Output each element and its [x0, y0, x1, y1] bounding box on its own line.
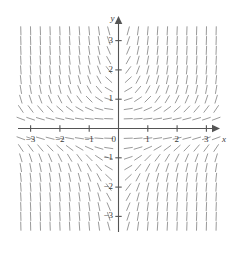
slope-segment: [157, 202, 158, 211]
slope-segment: [176, 85, 178, 94]
slope-segment: [156, 85, 159, 93]
slope-segment: [79, 36, 80, 45]
slope-segment: [65, 137, 74, 139]
slope-segment: [86, 96, 92, 102]
x-axis-label: x: [222, 135, 226, 144]
slope-segment: [46, 118, 55, 120]
slope-segment: [206, 85, 208, 94]
slope-segment: [127, 26, 129, 35]
slope-segment: [175, 154, 179, 162]
slope-segment: [69, 36, 70, 45]
slope-segment: [136, 183, 139, 191]
y-tick-label: 1: [109, 94, 114, 103]
slope-segment: [187, 56, 188, 65]
slope-segment: [77, 96, 82, 103]
slope-segment: [36, 117, 45, 120]
slope-segment: [196, 173, 197, 182]
slope-segment: [125, 174, 132, 180]
slope-segment: [79, 212, 80, 221]
slope-segment: [146, 86, 150, 94]
slope-segment: [88, 66, 90, 75]
slope-segment: [26, 117, 35, 120]
slope-segment: [175, 95, 179, 103]
x-tick-label: 1: [145, 135, 150, 144]
slope-segment: [196, 75, 197, 84]
slope-segment: [124, 108, 133, 109]
y-tick-label: 2: [109, 65, 114, 74]
slope-segment: [134, 97, 141, 102]
slope-segment: [124, 87, 132, 92]
slope-segment: [98, 26, 99, 35]
slope-segment: [20, 95, 23, 104]
slope-segment: [59, 65, 60, 74]
slope-segment: [59, 192, 60, 201]
slope-segment: [127, 212, 130, 221]
slope-segment: [177, 202, 178, 211]
slope-segment: [214, 144, 219, 151]
slope-segment: [69, 46, 70, 55]
slope-segment: [134, 147, 143, 150]
slope-segment: [185, 95, 189, 103]
slope-segment: [196, 56, 197, 65]
slope-segment: [196, 85, 198, 94]
slope-segment: [216, 173, 217, 182]
slope-segment: [89, 202, 90, 211]
slope-segment: [59, 85, 61, 94]
slope-segment: [195, 154, 198, 162]
slope-segment: [177, 183, 178, 192]
slope-segment: [206, 65, 207, 74]
slope-segment: [89, 222, 90, 231]
y-axis-label: y: [111, 14, 115, 23]
slope-segment: [36, 137, 45, 140]
slope-segment: [88, 56, 90, 65]
slope-segment: [78, 75, 80, 84]
slope-segment: [59, 56, 60, 65]
slope-segment: [56, 118, 65, 120]
y-tick-label: −3: [104, 211, 114, 220]
slope-segment: [89, 212, 90, 221]
slope-segment: [126, 56, 130, 64]
slope-segment: [124, 156, 133, 159]
slope-segment: [37, 106, 43, 113]
slope-segment: [186, 65, 187, 74]
slope-segment: [78, 173, 80, 182]
slope-segment: [86, 155, 92, 161]
slope-segment: [167, 46, 168, 55]
slope-segment: [30, 173, 31, 182]
slope-segment: [157, 36, 158, 45]
slope-segment: [183, 137, 192, 139]
slope-segment: [40, 75, 41, 84]
slope-segment: [187, 46, 188, 55]
slope-segment: [166, 163, 169, 172]
slope-segment: [167, 183, 168, 192]
slope-segment: [147, 56, 149, 65]
slope-segment: [155, 96, 160, 103]
slope-segment: [154, 107, 162, 112]
slope-segment: [185, 154, 189, 162]
slope-segment: [87, 164, 91, 172]
slope-segment: [204, 144, 209, 151]
slope-segment: [156, 173, 158, 182]
slope-segment: [77, 154, 82, 161]
slope-segment: [98, 46, 100, 55]
x-tick-label: −1: [84, 135, 94, 144]
slope-segment: [67, 154, 72, 162]
slope-segment: [59, 163, 61, 172]
slope-segment: [57, 145, 64, 151]
slope-segment: [85, 146, 93, 150]
slope-segment: [177, 212, 178, 221]
slope-segment: [164, 106, 171, 111]
x-tick-label: −2: [55, 135, 65, 144]
slope-segment: [48, 95, 52, 103]
x-tick-label: 2: [175, 135, 180, 144]
slope-segment: [215, 95, 218, 104]
slope-segment: [105, 87, 113, 92]
slope-segment: [136, 66, 139, 74]
slope-segment: [78, 85, 81, 93]
slope-segment: [95, 108, 104, 111]
slope-segment: [137, 202, 139, 211]
slope-segment: [137, 212, 138, 221]
slope-segment: [192, 137, 201, 140]
slope-segment: [75, 118, 84, 119]
slope-segment: [167, 56, 168, 65]
